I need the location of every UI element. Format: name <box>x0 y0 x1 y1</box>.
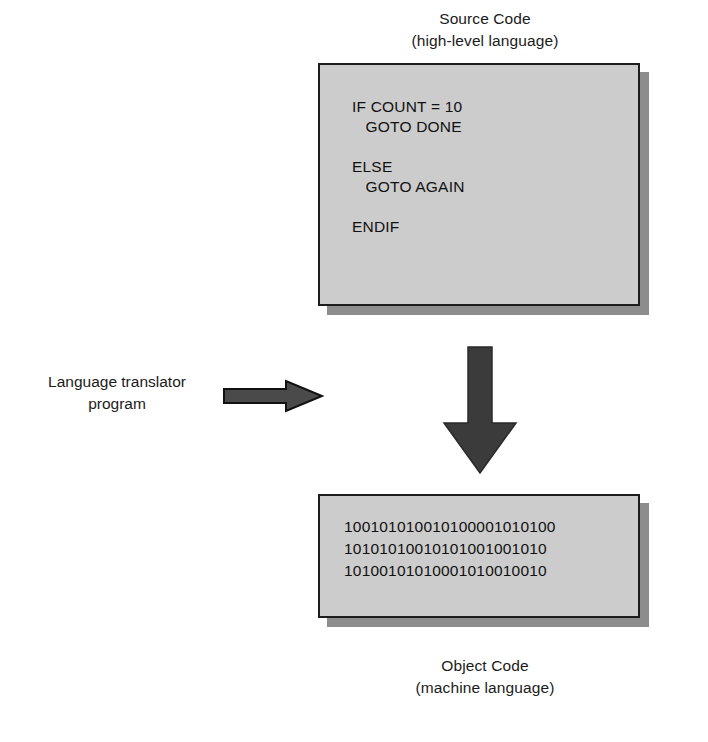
object-code-text: 100101010010100001010100 101010100101010… <box>344 516 556 582</box>
right-arrow-icon <box>222 378 324 414</box>
source-code-box-face: IF COUNT = 10 GOTO DONE ELSE GOTO AGAIN … <box>318 63 640 306</box>
source-code-caption-line1: Source Code <box>439 10 531 27</box>
source-code-box: IF COUNT = 10 GOTO DONE ELSE GOTO AGAIN … <box>318 63 640 306</box>
translator-label-line2: program <box>22 393 212 415</box>
object-code-caption-line2: (machine language) <box>335 677 635 699</box>
source-code-text: IF COUNT = 10 GOTO DONE ELSE GOTO AGAIN … <box>352 97 465 237</box>
object-code-box: 100101010010100001010100 101010100101010… <box>318 494 640 618</box>
source-code-caption-line2: (high-level language) <box>335 30 635 52</box>
down-arrow-icon <box>440 345 520 475</box>
source-code-caption: Source Code (high-level language) <box>335 8 635 52</box>
translator-diagram: Source Code (high-level language) IF COU… <box>0 0 708 742</box>
object-code-box-face: 100101010010100001010100 101010100101010… <box>318 494 640 618</box>
object-code-caption-line1: Object Code <box>441 657 528 674</box>
object-code-caption: Object Code (machine language) <box>335 655 635 699</box>
translator-label-line1: Language translator <box>48 373 186 390</box>
translator-label: Language translator program <box>22 371 212 415</box>
